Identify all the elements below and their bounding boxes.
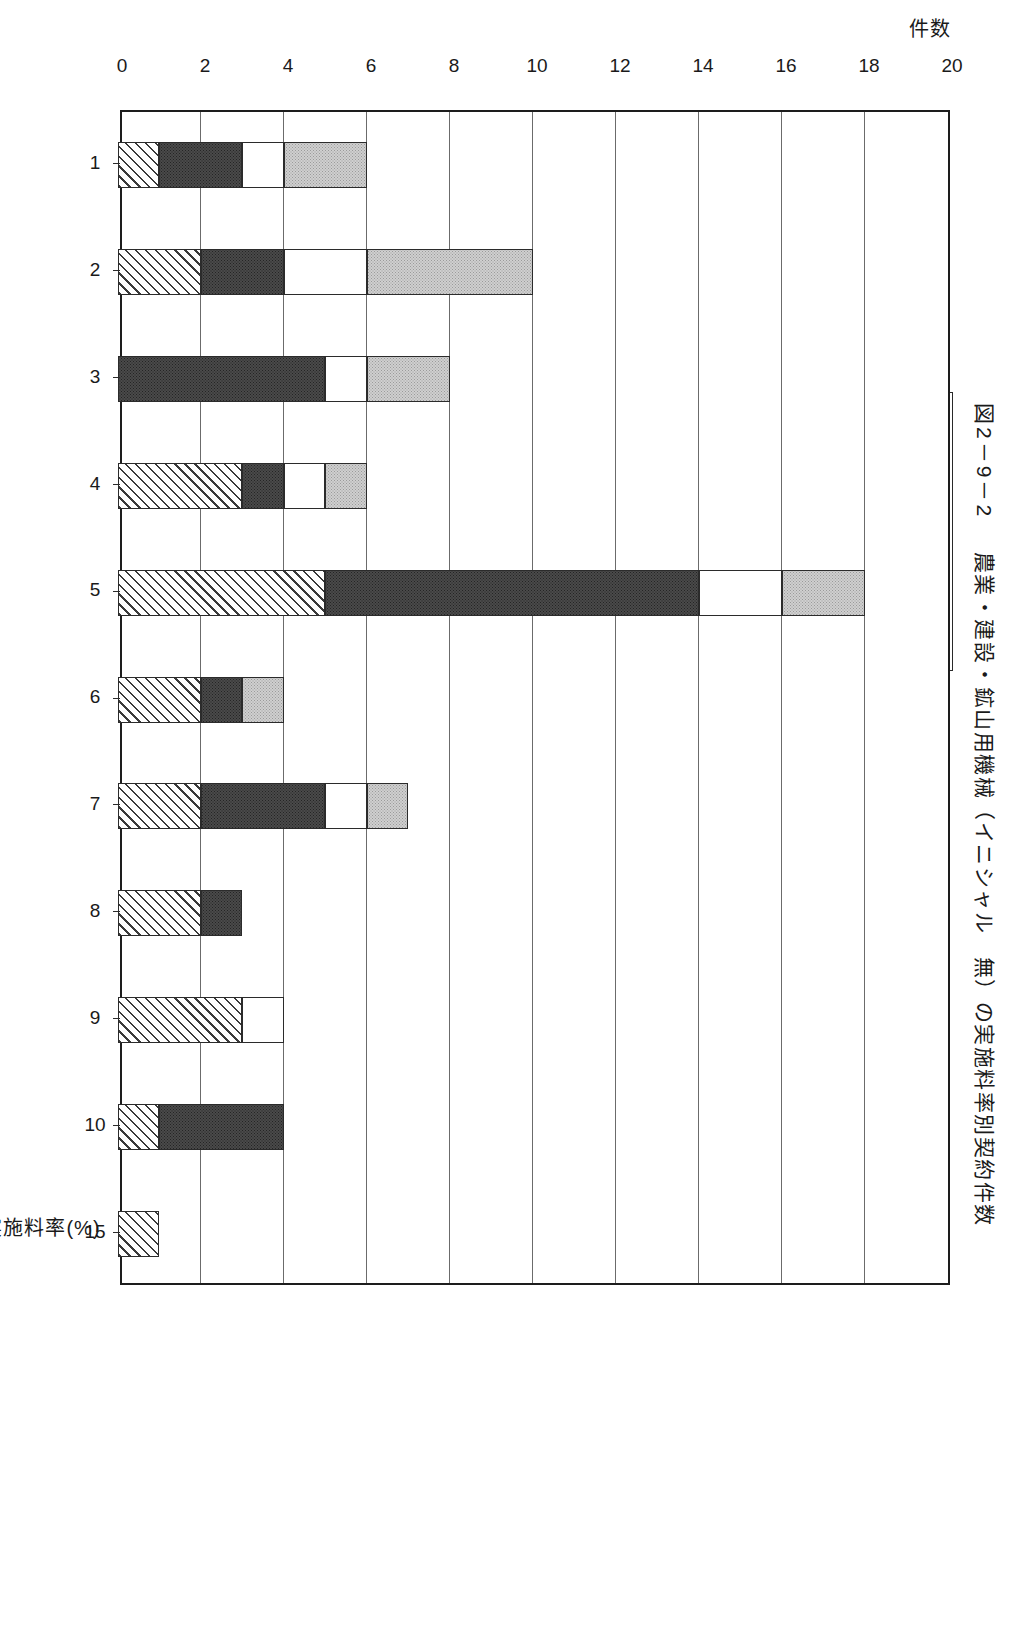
value-axis-tick: 2 xyxy=(194,36,216,96)
bar-segment xyxy=(326,356,368,402)
value-axis-tick: 14 xyxy=(692,36,714,96)
gridline xyxy=(781,112,782,1283)
figure-heading: 図2－9－2 農業・建設・鉱山用機械（イニシャル 無）の実施料率別契約件数 xyxy=(971,0,1001,1630)
gridline xyxy=(698,112,699,1283)
category-axis-tick: 4 xyxy=(84,464,106,504)
bar-segment xyxy=(699,570,782,616)
axis-tick-mark xyxy=(113,163,120,164)
bar-segment xyxy=(243,997,285,1043)
bar-segment xyxy=(201,783,326,829)
bar-segment xyxy=(326,570,700,616)
value-axis-tick: 18 xyxy=(858,36,880,96)
bar-segment xyxy=(284,249,367,295)
bar-segment xyxy=(284,463,326,509)
bar-segment xyxy=(118,463,243,509)
axis-tick-mark xyxy=(113,1232,120,1233)
axis-tick-mark xyxy=(113,804,120,805)
value-axis-tick: 12 xyxy=(609,36,631,96)
axis-tick-mark xyxy=(113,1125,120,1126)
bar-segment xyxy=(243,677,285,723)
value-axis-tick: 16 xyxy=(775,36,797,96)
bar-segment xyxy=(326,463,368,509)
bar-segment xyxy=(118,677,201,723)
bar-segment xyxy=(160,1104,285,1150)
axis-tick-mark xyxy=(113,377,120,378)
bar-segment xyxy=(201,890,243,936)
value-axis-title: 件数 xyxy=(915,6,944,48)
axis-tick-mark xyxy=(113,484,120,485)
gridline xyxy=(864,112,865,1283)
value-axis-tick: 8 xyxy=(443,36,465,96)
axis-tick-mark xyxy=(113,270,120,271)
bar-segment xyxy=(118,997,243,1043)
bar-segment xyxy=(367,783,409,829)
bar-segment xyxy=(367,356,450,402)
category-axis-tick: 10 xyxy=(84,1105,106,1145)
plot-area xyxy=(120,110,950,1285)
bar-segment xyxy=(118,570,326,616)
bar-segment xyxy=(201,677,243,723)
bar-segment xyxy=(118,890,201,936)
category-axis-tick: 5 xyxy=(84,571,106,611)
axis-tick-mark xyxy=(113,911,120,912)
bar-segment xyxy=(782,570,865,616)
bar-segment xyxy=(243,142,285,188)
value-axis-tick: 10 xyxy=(526,36,548,96)
category-axis-tick: 3 xyxy=(84,357,106,397)
figure-number: 図2－9－2 xyxy=(973,403,996,519)
bar-segment xyxy=(326,783,368,829)
category-axis-tick: 9 xyxy=(84,998,106,1038)
bar-segment xyxy=(118,783,201,829)
value-axis-tick: 6 xyxy=(360,36,382,96)
category-axis-tick: 8 xyxy=(84,891,106,931)
bar-segment xyxy=(160,142,243,188)
gridline xyxy=(947,112,948,1283)
gridline xyxy=(615,112,616,1283)
category-axis-tick: 7 xyxy=(84,784,106,824)
category-axis-title: 実施料率(%) xyxy=(27,1167,56,1285)
axis-tick-mark xyxy=(113,698,120,699)
value-axis-tick: 20 xyxy=(941,36,963,96)
page-title: 農業・建設・鉱山用機械（イニシャル 無）の実施料率別契約件数 xyxy=(973,552,996,1227)
value-axis-tick: 0 xyxy=(111,36,133,96)
bar-segment xyxy=(118,1104,160,1150)
category-axis-tick: 6 xyxy=(84,678,106,718)
bar-segment xyxy=(284,142,367,188)
category-axis-tick: 2 xyxy=(84,250,106,290)
bar-segment xyxy=(367,249,533,295)
axis-tick-mark xyxy=(113,591,120,592)
bar-segment xyxy=(243,463,285,509)
value-axis-tick: 4 xyxy=(277,36,299,96)
figure-canvas: 図2－9－2 農業・建設・鉱山用機械（イニシャル 無）の実施料率別契約件数 平成… xyxy=(0,0,1015,1630)
bar-segment xyxy=(118,142,160,188)
axis-tick-mark xyxy=(113,1018,120,1019)
bar-segment xyxy=(118,249,201,295)
bar-segment xyxy=(118,356,326,402)
bar-segment xyxy=(201,249,284,295)
category-axis-tick: 1 xyxy=(84,143,106,183)
bar-segment xyxy=(118,1211,160,1257)
